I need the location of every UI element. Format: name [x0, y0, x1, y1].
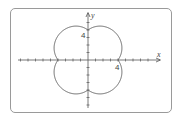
polar-graph: y x 4 4 [0, 0, 177, 118]
x-axis-label: x [156, 50, 161, 59]
y-tick-label-4: 4 [81, 31, 86, 40]
y-axis-label: y [90, 11, 95, 20]
axes [18, 13, 161, 109]
x-tick-label-4: 4 [115, 63, 120, 72]
